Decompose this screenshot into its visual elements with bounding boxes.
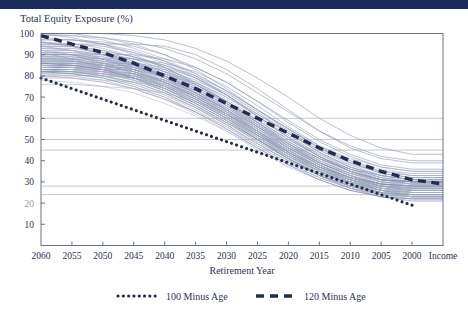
legend-label: 100 Minus Age	[166, 291, 228, 302]
glide-path-group	[41, 34, 443, 201]
y-tick-label: 100	[20, 29, 35, 39]
glide-path-line	[41, 44, 443, 163]
x-tick-label: 2045	[124, 251, 143, 261]
y-tick-label: 40	[25, 156, 35, 166]
x-tick-label: 2050	[93, 251, 112, 261]
y-tick-label: 90	[25, 50, 35, 60]
glide-path-line	[41, 59, 443, 188]
reference-line-dashed	[41, 36, 443, 184]
x-tick-label: 2040	[155, 251, 174, 261]
y-tick-label: 20	[25, 199, 35, 209]
x-axis-title: Retirement Year	[210, 265, 276, 276]
x-tick-label: 2035	[186, 251, 205, 261]
x-tick-label: 2015	[310, 251, 329, 261]
glide-path-line	[41, 72, 443, 195]
x-tick-label: 2055	[62, 251, 81, 261]
y-tick-label: 50	[25, 135, 35, 145]
chart-legend: 100 Minus Age120 Minus Age	[118, 291, 366, 302]
y-tick-label: 10	[25, 220, 35, 230]
x-tick-label: 2005	[372, 251, 391, 261]
y-tick-label: 70	[25, 93, 35, 103]
x-tick-label: Income	[429, 251, 458, 261]
x-tick-label: 2060	[32, 251, 51, 261]
x-tick-label: 2025	[248, 251, 267, 261]
y-tick-label: 60	[25, 114, 35, 124]
chart-svg: 1020304050607080901002060205520502045204…	[0, 0, 468, 317]
x-tick-label: 2000	[403, 251, 422, 261]
x-tick-label: 2020	[279, 251, 298, 261]
legend-label: 120 Minus Age	[304, 291, 366, 302]
x-tick-label: 2010	[341, 251, 360, 261]
y-tick-label: 80	[25, 71, 35, 81]
x-tick-label: 2030	[217, 251, 236, 261]
equity-glide-path-chart: 1020304050607080901002060205520502045204…	[0, 0, 468, 317]
glide-path-line	[41, 76, 443, 195]
x-axis: 2060205520502045204020352030202520202015…	[32, 242, 458, 261]
y-tick-label: 30	[25, 177, 35, 187]
